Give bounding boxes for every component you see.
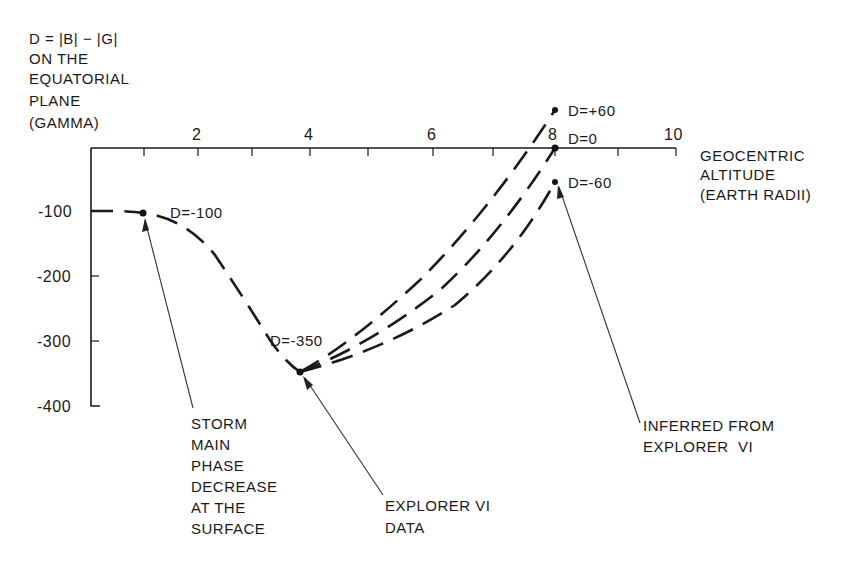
svg-text:D=0: D=0 [568, 130, 597, 147]
curve-d-plus-60 [300, 110, 555, 372]
y-tick-labels: -100 -200 -300 -400 [37, 203, 72, 415]
svg-text:PLANE: PLANE [29, 92, 81, 109]
svg-text:ON THE: ON THE [29, 50, 88, 67]
svg-text:D=-350: D=-350 [270, 332, 323, 349]
svg-text:D=-100: D=-100 [170, 204, 223, 221]
svg-text:EXPLORER VI: EXPLORER VI [385, 497, 491, 514]
data-curves [91, 110, 555, 372]
svg-text:(EARTH RADII): (EARTH RADII) [700, 186, 811, 203]
svg-text:STORM: STORM [191, 415, 247, 432]
svg-text:DECREASE: DECREASE [191, 478, 278, 495]
arrow-explorer-data [305, 378, 383, 495]
svg-text:EXPLORER VI: EXPLORER VI [643, 438, 753, 455]
point-d-minus-60 [552, 179, 558, 185]
x-ticks [144, 148, 676, 156]
arrowhead-icon [142, 218, 149, 232]
svg-text:8: 8 [548, 126, 557, 143]
svg-text:2: 2 [192, 126, 201, 143]
svg-text:-200: -200 [37, 268, 71, 285]
svg-text:GEOCENTRIC: GEOCENTRIC [700, 147, 805, 164]
svg-text:(GAMMA): (GAMMA) [29, 114, 99, 131]
svg-text:D = |B| − |G|: D = |B| − |G| [29, 30, 118, 47]
svg-text:DATA: DATA [385, 519, 425, 536]
svg-text:-400: -400 [37, 398, 71, 415]
svg-text:SURFACE: SURFACE [191, 520, 265, 537]
point-d-plus-60 [552, 107, 558, 113]
svg-text:AT THE: AT THE [191, 499, 246, 516]
svg-text:ALTITUDE: ALTITUDE [700, 166, 775, 183]
curve-d-0 [300, 148, 555, 372]
x-tick-labels: 2 4 6 8 10 [192, 126, 683, 143]
y-ticks [91, 276, 99, 341]
y-axis-label: D = |B| − |G| ON THE EQUATORIAL PLANE (G… [29, 30, 129, 131]
x-axis-label: GEOCENTRIC ALTITUDE (EARTH RADII) [700, 147, 811, 203]
svg-text:PHASE: PHASE [191, 457, 244, 474]
curve-d-minus-60 [300, 182, 555, 372]
y-axis [91, 148, 100, 406]
svg-text:4: 4 [304, 126, 313, 143]
annotation-storm: STORM MAIN PHASE DECREASE AT THE SURFACE [191, 415, 278, 537]
point-d-0 [552, 145, 559, 152]
arrowhead-icon [557, 185, 564, 199]
svg-text:D=+60: D=+60 [568, 102, 616, 119]
annotation-explorer-data: EXPLORER VI DATA [385, 497, 491, 536]
svg-text:D=-60: D=-60 [568, 174, 612, 191]
svg-text:-100: -100 [38, 203, 72, 220]
svg-text:EQUATORIAL: EQUATORIAL [29, 70, 129, 87]
svg-text:-300: -300 [37, 333, 71, 350]
svg-text:6: 6 [427, 126, 436, 143]
chart-canvas: D = |B| − |G| ON THE EQUATORIAL PLANE (G… [0, 0, 859, 564]
point-d-minus-350 [297, 369, 304, 376]
svg-text:10: 10 [664, 126, 683, 143]
curve-common [91, 211, 300, 372]
annotation-inferred: INFERRED FROM EXPLORER VI [643, 417, 775, 455]
arrow-inferred [559, 187, 640, 423]
svg-text:INFERRED FROM: INFERRED FROM [643, 417, 775, 434]
point-d-minus-100 [140, 210, 147, 217]
svg-text:MAIN: MAIN [191, 436, 231, 453]
arrow-storm [145, 220, 193, 408]
